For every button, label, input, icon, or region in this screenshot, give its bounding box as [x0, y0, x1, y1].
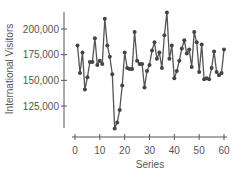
data-point	[110, 72, 114, 76]
data-point	[210, 66, 214, 70]
series-layer	[76, 11, 227, 131]
data-point	[83, 88, 87, 92]
data-point	[220, 71, 224, 75]
x-tick-label: 30	[144, 145, 156, 156]
data-point	[78, 71, 82, 75]
data-point	[195, 40, 199, 44]
data-point	[175, 69, 179, 73]
data-point	[130, 67, 134, 71]
data-point	[155, 57, 159, 61]
data-point	[192, 30, 196, 34]
data-point	[157, 51, 161, 55]
data-point	[212, 50, 216, 54]
x-tick-label: 0	[72, 145, 78, 156]
data-point	[153, 40, 157, 44]
data-point	[93, 36, 97, 40]
data-point	[200, 42, 204, 46]
data-point	[148, 63, 152, 67]
data-point	[85, 75, 89, 79]
data-point	[145, 69, 149, 73]
data-point	[113, 127, 117, 131]
data-point	[98, 59, 102, 63]
x-tick-label: 20	[119, 145, 131, 156]
data-point	[135, 59, 139, 63]
data-point	[103, 17, 107, 21]
data-point	[150, 49, 154, 53]
x-tick-label: 50	[194, 145, 206, 156]
data-point	[177, 59, 181, 63]
x-axis: 0102030405060	[72, 134, 230, 156]
data-point	[167, 57, 171, 61]
data-point	[140, 62, 144, 66]
data-point	[123, 51, 127, 55]
data-point	[222, 48, 226, 52]
data-point	[172, 76, 176, 80]
series-line	[78, 13, 225, 129]
y-tick-label: 125,000	[23, 101, 60, 112]
data-point	[76, 43, 80, 47]
x-tick-label: 60	[218, 145, 230, 156]
data-point	[180, 47, 184, 51]
data-point	[95, 63, 99, 67]
x-tick-label: 40	[169, 145, 181, 156]
data-point	[207, 77, 211, 81]
y-tick-label: 175,000	[23, 49, 60, 60]
data-point	[120, 84, 124, 88]
data-point	[133, 30, 137, 34]
data-point	[160, 66, 164, 70]
data-point	[165, 11, 169, 15]
chart: 125,000150,000175,000200,000 01020304050…	[0, 0, 242, 182]
data-point	[182, 38, 186, 42]
x-axis-title: Series	[136, 159, 164, 170]
data-point	[143, 86, 147, 90]
x-tick-label: 10	[94, 145, 106, 156]
y-tick-label: 150,000	[23, 75, 60, 86]
data-point	[105, 43, 109, 47]
data-point	[162, 33, 166, 37]
y-axis: 125,000150,000175,000200,000	[23, 12, 67, 128]
data-point	[190, 65, 194, 69]
data-point	[187, 48, 191, 52]
data-point	[90, 60, 94, 64]
data-point	[118, 108, 122, 112]
data-point	[81, 51, 85, 55]
y-tick-label: 200,000	[23, 24, 60, 35]
data-point	[170, 43, 174, 47]
y-axis-title: International Visitors	[4, 24, 15, 114]
data-point	[197, 70, 201, 74]
data-point	[115, 120, 119, 124]
data-point	[108, 55, 112, 59]
data-point	[185, 52, 189, 56]
data-point	[100, 62, 104, 66]
